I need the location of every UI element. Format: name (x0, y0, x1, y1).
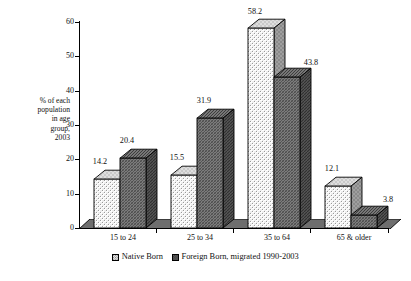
legend-item-foreign-born[interactable]: Foreign Born, migrated 1990-2003 (172, 252, 299, 262)
x-category-label-0: 15 to 24 (88, 233, 158, 242)
data-label-native-65-and-older: 12.1 (317, 165, 347, 173)
y-tick-label-60: 60 (44, 18, 74, 26)
data-label-foreign-25-to-34: 31.9 (189, 97, 219, 105)
chart-legend: Native Born Foreign Born, migrated 1990-… (0, 252, 411, 262)
data-label-foreign-35-to-64: 43.8 (296, 59, 326, 67)
bar-foreign-35-to-64 (274, 68, 300, 228)
chart-container: % of each population in age group, 2003 … (0, 0, 411, 281)
data-label-native-15-to-24: 14.2 (85, 158, 115, 166)
y-tick-0 (75, 228, 79, 229)
legend-label-foreign-born: Foreign Born, migrated 1990-2003 (181, 252, 298, 262)
data-label-native-35-to-64: 58.2 (240, 8, 270, 16)
y-tick-10 (75, 194, 79, 195)
y-tick-40 (75, 91, 79, 92)
bar-native-15-to-24 (94, 170, 120, 228)
y-tick-30 (75, 125, 79, 126)
bar-native-25-to-34 (171, 166, 197, 228)
foreign-born-swatch (172, 254, 179, 261)
data-label-foreign-65-and-older: 3.8 (373, 196, 403, 204)
bar-foreign-25-to-34 (197, 109, 223, 228)
x-category-label-3: 65 & older (319, 233, 389, 242)
y-tick-label-20: 20 (44, 155, 74, 163)
legend-label-native-born: Native Born (122, 252, 163, 262)
data-label-foreign-15-to-24: 20.4 (112, 137, 142, 145)
bar-native-35-to-64 (248, 19, 274, 228)
bar-foreign-65-and-older (351, 206, 377, 228)
y-tick-60 (75, 22, 79, 23)
y-tick-50 (75, 56, 79, 57)
y-tick-label-40: 40 (44, 87, 74, 95)
x-category-label-2: 35 to 64 (242, 233, 312, 242)
x-category-label-1: 25 to 34 (165, 233, 235, 242)
plot-area: 0 10 20 30 40 50 60 14.2 (0, 0, 411, 281)
y-tick-label-10: 10 (44, 190, 74, 198)
y-tick-label-50: 50 (44, 52, 74, 60)
y-tick-20 (75, 159, 79, 160)
bar-foreign-15-to-24 (120, 149, 146, 228)
y-tick-label-30: 30 (44, 121, 74, 129)
legend-item-native-born[interactable]: Native Born (112, 252, 163, 262)
data-label-native-25-to-34: 15.5 (162, 154, 192, 162)
native-born-swatch (112, 254, 119, 261)
y-tick-label-0: 0 (44, 224, 74, 232)
bar-native-65-and-older (325, 177, 351, 228)
y-axis-line (79, 21, 80, 229)
